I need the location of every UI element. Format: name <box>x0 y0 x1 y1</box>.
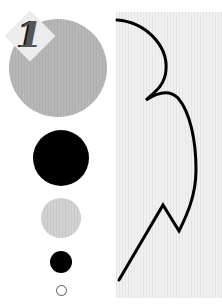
outline-path <box>117 20 196 280</box>
tracing-outline <box>0 0 222 305</box>
